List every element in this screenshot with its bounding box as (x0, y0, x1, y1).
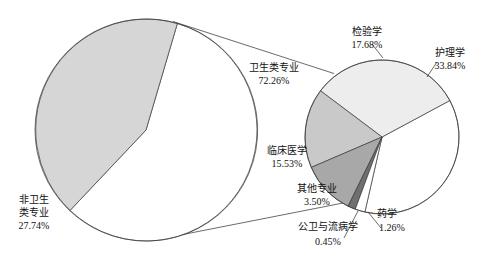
main-pie-group (35, 19, 258, 241)
label-health-major-name: 卫生类专业 (249, 61, 299, 73)
label-nonhealth-major-line2: 类专业 (19, 206, 49, 218)
label-health-major-pct: 72.26% (259, 75, 290, 86)
pie-of-pie-chart: 卫生类专业 72.26% 非卫生 类专业 27.74% 检验学 17.68% 护… (0, 0, 490, 263)
label-nursing-pct: 33.84% (435, 60, 466, 71)
label-public-health-pct: 0.45% (315, 236, 341, 247)
label-nonhealth-major-pct: 27.74% (19, 220, 50, 231)
label-clinical-name: 临床医学 (267, 144, 307, 156)
label-public-health-name: 公卫与流病学 (298, 220, 358, 232)
label-other-name: 其他专业 (297, 182, 337, 194)
label-pharmacy-name: 药学 (377, 207, 397, 219)
label-nonhealth-major-line1: 非卫生 (19, 193, 49, 205)
chart-canvas: 卫生类专业 72.26% 非卫生 类专业 27.74% 检验学 17.68% 护… (0, 0, 490, 263)
label-lab-pct: 17.68% (352, 39, 383, 50)
label-other-pct: 3.50% (304, 196, 330, 207)
label-clinical-pct: 15.53% (272, 158, 303, 169)
label-nursing-name: 护理学 (435, 46, 465, 58)
label-pharmacy-pct: 1.26% (379, 222, 405, 233)
label-lab-name: 检验学 (352, 25, 382, 37)
